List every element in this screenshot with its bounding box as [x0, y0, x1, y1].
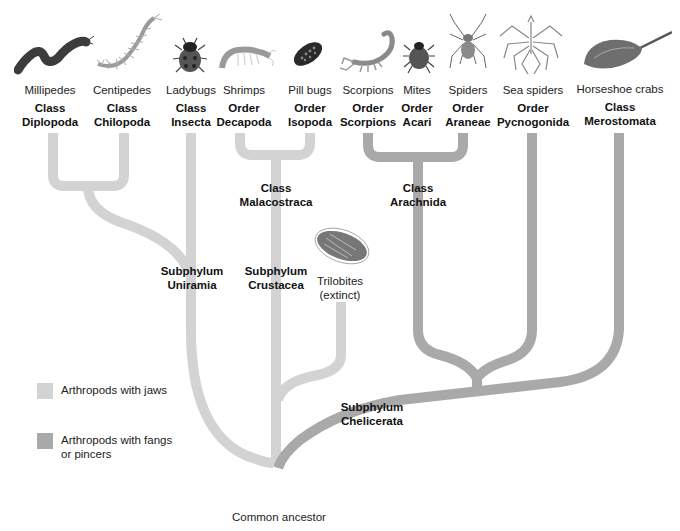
- taxon-name: Acari: [401, 115, 432, 129]
- node-name: Arachnida: [390, 195, 446, 209]
- node-uniramia: Subphylum Uniramia: [161, 264, 224, 292]
- taxon-name: Diplopoda: [22, 115, 78, 129]
- horseshoe-crab-icon: [580, 28, 672, 74]
- taxon-centipedes: Centipedes Class Chilopoda: [93, 83, 151, 129]
- taxon-name: Decapoda: [217, 115, 272, 129]
- rank: Order: [340, 101, 396, 115]
- node-crustacea: Subphylum Crustacea: [245, 264, 308, 292]
- extinct-note: (extinct): [317, 288, 363, 302]
- taxon-spiders: Spiders Order Araneae: [445, 83, 490, 129]
- node-name: Chelicerata: [341, 414, 404, 428]
- spider-icon: [448, 12, 488, 74]
- rank: Class: [577, 100, 664, 114]
- trilobite-icon: [312, 226, 370, 266]
- taxon-horseshoe-crabs: Horseshoe crabs Class Merostomata: [577, 82, 664, 128]
- taxon-name: Chilopoda: [93, 115, 151, 129]
- taxon-millipedes: Millipedes Class Diplopoda: [22, 83, 78, 129]
- node-arachnida: Class Arachnida: [390, 181, 446, 209]
- taxon-pill-bugs: Pill bugs Order Isopoda: [288, 83, 332, 129]
- taxon-sea-spiders: Sea spiders Order Pycnogonida: [497, 83, 569, 129]
- taxon-name: Insecta: [166, 115, 216, 129]
- mite-icon: [402, 36, 436, 74]
- legend-label: Arthropods with jaws: [61, 383, 167, 397]
- rank: Order: [497, 101, 569, 115]
- taxon-name: Scorpions: [340, 115, 396, 129]
- common-name: Scorpions: [340, 83, 396, 97]
- common-name: Sea spiders: [497, 83, 569, 97]
- common-name: Spiders: [445, 83, 490, 97]
- taxon-name: Isopoda: [288, 115, 332, 129]
- rank: Class: [166, 101, 216, 115]
- taxon-scorpions: Scorpions Order Scorpions: [340, 83, 396, 129]
- millipede-icon: [14, 30, 94, 75]
- rank: Class: [22, 101, 78, 115]
- node-rank: Subphylum: [245, 264, 308, 278]
- sea-spider-icon: [498, 14, 564, 74]
- node-chelicerata: Subphylum Chelicerata: [341, 400, 404, 428]
- taxon-name: Araneae: [445, 115, 490, 129]
- shrimp-icon: [218, 42, 276, 72]
- rank: Class: [93, 101, 151, 115]
- legend-swatch-fangs: [37, 433, 53, 449]
- ladybug-icon: [172, 36, 208, 76]
- common-name: Horseshoe crabs: [577, 82, 664, 96]
- node-rank: Class: [240, 181, 313, 195]
- rank: Order: [288, 101, 332, 115]
- legend-fangs: Arthropods with fangs or pincers: [37, 433, 172, 461]
- common-name: Shrimps: [217, 83, 272, 97]
- node-name: Malacostraca: [240, 195, 313, 209]
- node-name: Crustacea: [245, 278, 308, 292]
- taxon-name: Merostomata: [577, 114, 664, 128]
- pill-bug-icon: [288, 36, 328, 70]
- rank: Order: [445, 101, 490, 115]
- node-malacostraca: Class Malacostraca: [240, 181, 313, 209]
- legend-jaws: Arthropods with jaws: [37, 383, 167, 399]
- node-rank: Subphylum: [341, 400, 404, 414]
- centipede-icon: [92, 14, 167, 74]
- common-name: Centipedes: [93, 83, 151, 97]
- common-name: Ladybugs: [166, 83, 216, 97]
- root-label: Common ancestor: [232, 511, 326, 523]
- taxon-name: Pycnogonida: [497, 115, 569, 129]
- node-rank: Subphylum: [161, 264, 224, 278]
- common-name: Mites: [401, 83, 432, 97]
- rank: Order: [401, 101, 432, 115]
- rank: Order: [217, 101, 272, 115]
- taxon-shrimps: Shrimps Order Decapoda: [217, 83, 272, 129]
- legend-swatch-jaws: [37, 383, 53, 399]
- common-name: Pill bugs: [288, 83, 332, 97]
- node-name: Uniramia: [161, 278, 224, 292]
- legend-label: Arthropods with fangs or pincers: [61, 433, 172, 461]
- trilobites-label: Trilobites: [317, 274, 363, 288]
- node-rank: Class: [390, 181, 446, 195]
- taxon-ladybugs: Ladybugs Class Insecta: [166, 83, 216, 129]
- common-name: Millipedes: [22, 83, 78, 97]
- node-trilobites: Trilobites (extinct): [317, 274, 363, 302]
- taxon-mites: Mites Order Acari: [401, 83, 432, 129]
- scorpion-icon: [340, 28, 400, 74]
